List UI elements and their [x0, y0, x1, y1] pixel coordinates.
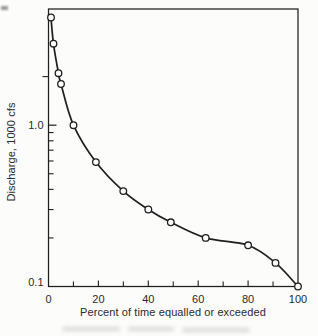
data-point-marker — [295, 283, 302, 290]
data-point-marker — [50, 40, 57, 47]
data-point-marker — [55, 70, 62, 77]
data-point-marker — [58, 81, 65, 88]
x-tick-label: 100 — [289, 293, 307, 305]
data-point-marker — [145, 206, 152, 213]
x-tick-label: 0 — [45, 293, 51, 305]
data-point-marker — [202, 235, 209, 242]
x-tick-label: 60 — [192, 293, 204, 305]
y-tick-label: 1.0 — [28, 119, 43, 131]
plot-area: 0204060801001.00.1 — [28, 9, 307, 305]
data-point-marker — [120, 188, 127, 195]
data-point-marker — [168, 219, 175, 226]
data-point-marker — [48, 14, 55, 21]
y-tick-label: 0.1 — [28, 276, 43, 288]
data-point-marker — [272, 260, 279, 267]
x-tick-label: 20 — [92, 293, 104, 305]
data-point-marker — [93, 159, 100, 166]
flow-duration-chart: 0204060801001.00.1 Percent of time equal… — [0, 0, 318, 336]
data-point-marker — [70, 122, 77, 129]
y-axis-title: Discharge, 1000 cfs — [5, 102, 17, 202]
discharge-curve — [51, 18, 298, 287]
data-point-marker — [245, 242, 252, 249]
x-tick-label: 80 — [242, 293, 254, 305]
x-axis-title: Percent of time equalled or exceeded — [80, 306, 266, 318]
scanned-figure: 0204060801001.00.1 Percent of time equal… — [0, 0, 318, 336]
x-tick-label: 40 — [142, 293, 154, 305]
